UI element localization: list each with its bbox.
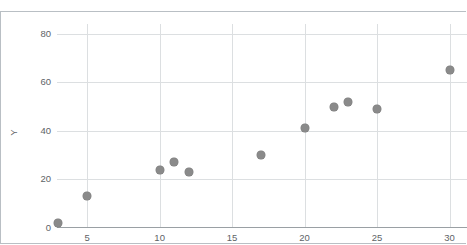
clipped-top-text-label: · xyxy=(78,0,82,4)
x-tick-label-15: 15 xyxy=(217,233,247,243)
data-point xyxy=(373,105,381,113)
data-point xyxy=(156,166,164,174)
gridline-x-10 xyxy=(160,24,161,228)
y-tick-label-80: 80 xyxy=(21,29,51,39)
y-tick-label-20: 20 xyxy=(21,174,51,184)
x-tick-label-30: 30 xyxy=(435,233,465,243)
data-point xyxy=(330,103,338,111)
y-tick-label-60: 60 xyxy=(21,77,51,87)
y-tick-label-40: 40 xyxy=(21,126,51,136)
gridline-x-25 xyxy=(377,24,378,228)
data-point xyxy=(344,98,352,106)
clipped-top-text: · xyxy=(0,0,467,11)
gridline-y-80 xyxy=(57,34,467,35)
x-tick-label-25: 25 xyxy=(362,233,392,243)
gridline-y-40 xyxy=(57,131,467,132)
data-point xyxy=(446,66,454,74)
plot-area xyxy=(57,24,467,228)
data-point xyxy=(83,192,91,200)
gridline-y-20 xyxy=(57,179,467,180)
gridline-x-30 xyxy=(450,24,451,228)
data-point xyxy=(170,158,178,166)
x-tick-label-10: 10 xyxy=(145,233,175,243)
data-point xyxy=(257,151,265,159)
gridline-x-15 xyxy=(232,24,233,228)
gridline-y-60 xyxy=(57,82,467,83)
y-tick-label-0: 0 xyxy=(21,223,51,233)
chart-frame: Y 020406080 51015202530 xyxy=(0,11,466,244)
x-tick-label-5: 5 xyxy=(72,233,102,243)
x-axis-line xyxy=(57,227,467,228)
data-point xyxy=(185,168,193,176)
x-tick-label-20: 20 xyxy=(290,233,320,243)
y-axis-title: Y xyxy=(8,129,19,135)
data-point xyxy=(54,219,62,227)
